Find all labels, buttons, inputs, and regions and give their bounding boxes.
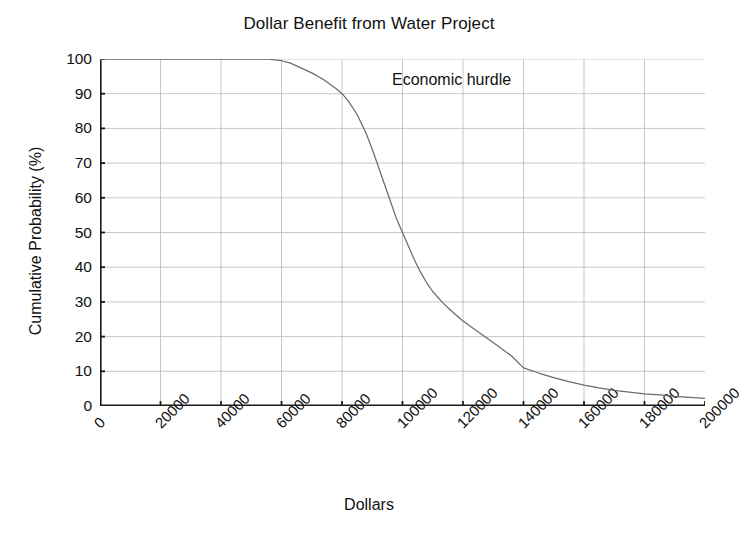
plot-area [100,59,705,406]
x-tick-label: 0 [91,414,108,431]
economic-hurdle-annotation: Economic hurdle [392,71,511,89]
plot-svg [100,59,705,406]
